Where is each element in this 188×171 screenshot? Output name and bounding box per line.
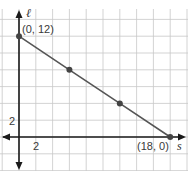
x-tick-label: 2 <box>33 140 39 152</box>
y-axis-up-arrow-icon <box>16 10 23 18</box>
coordinate-plane: ℓ s 2 2 (0, 12) (18, 0) <box>0 0 188 171</box>
x-axis-label: s <box>177 139 182 153</box>
point-label-end: (18, 0) <box>137 140 169 152</box>
y-axis-label: ℓ <box>26 6 31 20</box>
y-tick-label: 2 <box>9 115 15 127</box>
data-point <box>117 100 123 106</box>
y-axis-down-arrow-icon <box>16 162 23 170</box>
x-axis-left-arrow-icon <box>2 134 10 141</box>
point-label-start: (0, 12) <box>22 23 54 35</box>
data-point <box>66 67 72 73</box>
